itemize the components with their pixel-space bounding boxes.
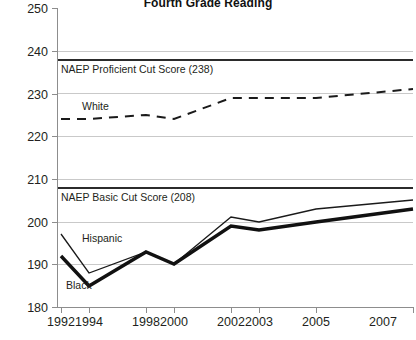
x-tick-mark xyxy=(61,307,62,313)
series-label-white: White xyxy=(82,100,109,112)
x-tick-label-1992: 1992 xyxy=(47,315,75,329)
x-tick-mark xyxy=(316,307,317,313)
y-tick-label-210: 210 xyxy=(0,173,48,187)
x-tick-label-2005: 2005 xyxy=(302,315,330,329)
y-tick-label-250: 250 xyxy=(0,2,48,16)
x-tick-label-1998: 1998 xyxy=(132,315,160,329)
series-lines xyxy=(58,8,413,307)
chart-container: Fourth Grade Reading 250 240 230 220 210… xyxy=(0,0,416,340)
series-line-white xyxy=(61,89,413,119)
x-tick-label-2003: 2003 xyxy=(245,315,273,329)
series-line-black xyxy=(61,209,413,286)
y-tick-label-240: 240 xyxy=(0,45,48,59)
x-tick-mark xyxy=(231,307,232,313)
x-tick-label-1994: 1994 xyxy=(75,315,103,329)
basic-cut-score-label: NAEP Basic Cut Score (208) xyxy=(61,191,195,203)
x-tick-label-2007: 2007 xyxy=(369,315,397,329)
x-tick-mark xyxy=(413,307,414,313)
proficient-cut-score-label: NAEP Proficient Cut Score (238) xyxy=(61,63,213,75)
series-label-hispanic: Hispanic xyxy=(82,232,122,244)
y-tick-label-180: 180 xyxy=(0,301,48,315)
x-tick-mark xyxy=(259,307,260,313)
x-tick-label-2000: 2000 xyxy=(160,315,188,329)
x-tick-label-2002: 2002 xyxy=(217,315,245,329)
x-tick-mark xyxy=(174,307,175,313)
x-tick-mark xyxy=(89,307,90,313)
y-tick-label-190: 190 xyxy=(0,258,48,272)
series-label-black: Black xyxy=(66,279,92,291)
y-tick-label-230: 230 xyxy=(0,88,48,102)
x-axis-line xyxy=(57,307,413,308)
y-tick-label-200: 200 xyxy=(0,216,48,230)
y-tick-label-220: 220 xyxy=(0,130,48,144)
x-tick-mark xyxy=(146,307,147,313)
plot-area: NAEP Proficient Cut Score (238) NAEP Bas… xyxy=(58,8,413,307)
